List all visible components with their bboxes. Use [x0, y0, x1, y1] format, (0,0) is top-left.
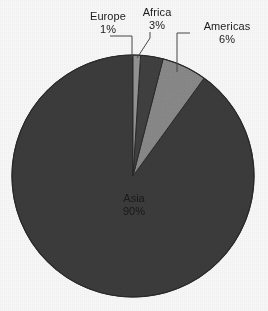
slice-label-americas: Americas 6%: [192, 20, 262, 46]
slice-label-asia-percent: 90%: [103, 205, 165, 218]
slice-label-asia-name: Asia: [103, 192, 165, 205]
slice-label-europe-name: Europe: [78, 10, 138, 23]
slice-label-americas-name: Americas: [192, 20, 262, 33]
slice-label-africa-percent: 3%: [131, 19, 183, 32]
slice-label-americas-percent: 6%: [192, 33, 262, 46]
slice-label-africa: Africa 3%: [131, 6, 183, 32]
slice-label-africa-name: Africa: [131, 6, 183, 19]
pie-chart-canvas: [0, 0, 268, 311]
slice-label-asia: Asia 90%: [103, 192, 165, 218]
pie-chart-figure: Europe 1% Africa 3% Americas 6% Asia 90%: [0, 0, 268, 311]
slice-label-europe-percent: 1%: [78, 23, 138, 36]
leader-line-africa: [137, 32, 150, 58]
slice-label-europe: Europe 1%: [78, 10, 138, 36]
leader-line-europe: [110, 36, 132, 57]
